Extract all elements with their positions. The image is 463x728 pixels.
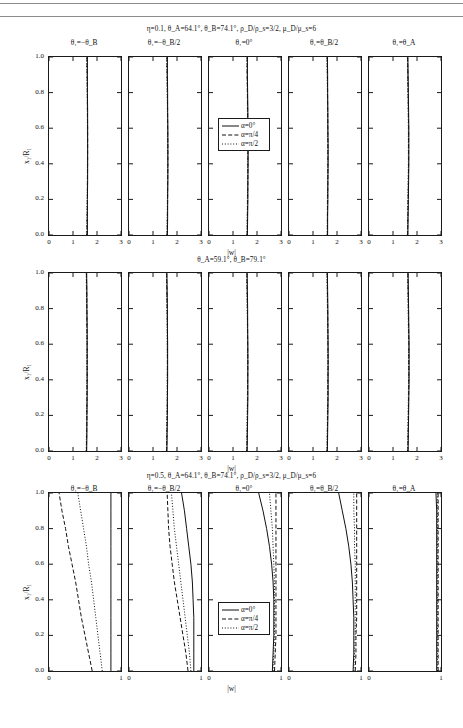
- legend-item: α=π/2: [221, 139, 266, 148]
- column-header-1: θ₁=−θ_B: [44, 38, 124, 47]
- legend-label: α=0°: [240, 122, 255, 130]
- column-header-2: θ₁=−θ_B/2: [124, 38, 204, 47]
- x-tick-label: 1: [147, 454, 159, 462]
- y-tick-label: 0.6: [24, 339, 44, 347]
- y-tick-label: 0.8: [24, 524, 44, 532]
- plot-panel: [48, 272, 122, 452]
- y-tick-label: 1.0: [24, 52, 44, 60]
- x-tick-label: 0: [203, 238, 215, 246]
- y-tick-label: 0.6: [24, 123, 44, 131]
- legend: α=0°α=π/4α=π/2: [218, 118, 270, 151]
- x-tick-label: 2: [331, 454, 343, 462]
- legend-label: α=π/2: [240, 624, 258, 632]
- plot-panel: [368, 272, 442, 452]
- legend-item: α=π/2: [221, 623, 266, 632]
- y-axis-label: x₁/R₁: [22, 364, 31, 380]
- plot-panel: [128, 56, 202, 236]
- legend: α=0°α=π/4α=π/2: [218, 602, 270, 635]
- x-axis-label: |w|: [0, 464, 463, 473]
- x-tick-label: 2: [91, 454, 103, 462]
- column-header-5: θ₁=θ_A: [364, 38, 444, 47]
- block-3-title: η=0.5, θ_A=64.1°, θ_B=74.1°, ρ_D/ρ_s=3/2…: [0, 472, 463, 480]
- x-tick-label: 1: [387, 454, 399, 462]
- legend-label: α=π/2: [240, 140, 258, 148]
- plot-panel: [288, 272, 362, 452]
- y-tick-label: 0.8: [24, 304, 44, 312]
- x-tick-label: 1: [227, 454, 239, 462]
- x-tick-label: 3: [435, 454, 447, 462]
- block-1-title: η=0.1, θ_A=64.1°, θ_B=74.1°, ρ_D/ρ_s=3/2…: [0, 25, 463, 33]
- x-tick-label: 0: [203, 674, 215, 682]
- column-header-3: θ₁=0°: [204, 38, 284, 47]
- x-tick-label: 2: [251, 238, 263, 246]
- legend-item: α=π/4: [221, 614, 266, 623]
- x-tick-label: 2: [251, 454, 263, 462]
- legend-label: α=π/4: [240, 615, 258, 623]
- x-tick-label: 1: [387, 238, 399, 246]
- plot-panel: [368, 56, 442, 236]
- x-tick-label: 0: [43, 674, 55, 682]
- x-axis-label: |w|: [0, 684, 463, 693]
- header-rule-top: [0, 3, 463, 4]
- plot-panel: [48, 492, 122, 672]
- y-tick-label: 0.2: [24, 630, 44, 638]
- legend-line-dotted-icon: [221, 139, 240, 148]
- y-tick-label: 0.8: [24, 88, 44, 96]
- y-tick-label: 0.0: [24, 230, 44, 238]
- x-tick-label: 0: [43, 454, 55, 462]
- y-tick-label: 0.0: [24, 446, 44, 454]
- block-2-title: θ_A=59.1°, θ_B=79.1°: [0, 256, 463, 264]
- figure-page: η=0.1, θ_A=64.1°, θ_B=74.1°, ρ_D/ρ_s=3/2…: [0, 0, 463, 728]
- x-tick-label: 1: [227, 238, 239, 246]
- x-tick-label: 1: [435, 674, 447, 682]
- x-tick-label: 2: [171, 238, 183, 246]
- x-tick-label: 3: [435, 238, 447, 246]
- plot-panel: [208, 492, 282, 672]
- x-tick-label: 0: [203, 454, 215, 462]
- legend-line-solid-icon: [221, 605, 240, 614]
- y-axis-label: x₁/R₁: [22, 584, 31, 600]
- x-tick-label: 0: [123, 674, 135, 682]
- plot-panel: [288, 56, 362, 236]
- y-tick-label: 1.0: [24, 488, 44, 496]
- x-tick-label: 1: [307, 238, 319, 246]
- column-header-4: θ₁=θ_B/2: [284, 38, 364, 47]
- legend-item: α=π/4: [221, 130, 266, 139]
- legend-item: α=0°: [221, 605, 266, 614]
- x-tick-label: 0: [363, 454, 375, 462]
- legend-item: α=0°: [221, 121, 266, 130]
- x-tick-label: 2: [171, 454, 183, 462]
- header-rule-bottom: [0, 16, 463, 17]
- legend-line-solid-icon: [221, 121, 240, 130]
- x-tick-label: 1: [67, 454, 79, 462]
- x-axis-label: |w|: [0, 248, 463, 257]
- x-tick-label: 0: [283, 238, 295, 246]
- y-axis-label: x₁/R₁: [22, 148, 31, 164]
- y-tick-label: 0.6: [24, 559, 44, 567]
- plot-panel: [208, 272, 282, 452]
- x-tick-label: 0: [283, 674, 295, 682]
- plot-panel: [128, 272, 202, 452]
- y-tick-label: 0.0: [24, 666, 44, 674]
- x-tick-label: 0: [363, 238, 375, 246]
- legend-line-dashed-icon: [221, 130, 240, 139]
- x-tick-label: 0: [43, 238, 55, 246]
- x-tick-label: 2: [331, 238, 343, 246]
- plot-panel: [288, 492, 362, 672]
- y-tick-label: 0.2: [24, 194, 44, 202]
- x-tick-label: 0: [123, 454, 135, 462]
- x-tick-label: 2: [91, 238, 103, 246]
- x-tick-label: 1: [67, 238, 79, 246]
- x-tick-label: 2: [411, 238, 423, 246]
- legend-line-dotted-icon: [221, 623, 240, 632]
- legend-label: α=π/4: [240, 131, 258, 139]
- y-tick-label: 1.0: [24, 268, 44, 276]
- x-tick-label: 0: [123, 238, 135, 246]
- x-tick-label: 1: [307, 454, 319, 462]
- legend-label: α=0°: [240, 606, 255, 614]
- y-tick-label: 0.2: [24, 410, 44, 418]
- block-1-column-headers: θ₁=−θ_B θ₁=−θ_B/2 θ₁=0° θ₁=θ_B/2 θ₁=θ_A: [0, 38, 463, 49]
- x-tick-label: 1: [147, 238, 159, 246]
- x-tick-label: 0: [283, 454, 295, 462]
- legend-line-dashed-icon: [221, 614, 240, 623]
